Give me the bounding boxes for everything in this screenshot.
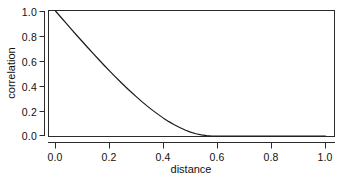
y-tick-label-1: 0.2 [15, 107, 37, 118]
x-tick-label-3: 0.6 [209, 152, 224, 163]
chart-figure: 0.0 0.2 0.4 0.6 0.8 1.0 0.0 0.2 0.4 0.6 … [0, 0, 349, 180]
x-axis-ticks [56, 143, 326, 149]
y-tick-label-2: 0.4 [15, 82, 37, 93]
y-axis-ticks [40, 12, 45, 136]
x-tick-label-5: 1.0 [317, 152, 332, 163]
y-tick-label-4: 0.8 [15, 32, 37, 43]
y-tick-label-0: 0.0 [15, 131, 37, 142]
y-tick-label-3: 0.6 [15, 57, 37, 68]
y-axis-title: correlation [6, 47, 17, 98]
y-tick-label-5: 1.0 [15, 7, 37, 18]
x-tick-label-4: 0.8 [263, 152, 278, 163]
x-tick-label-2: 0.4 [155, 152, 170, 163]
x-tick-label-0: 0.0 [47, 152, 62, 163]
x-tick-label-1: 0.2 [101, 152, 116, 163]
x-axis-title: distance [171, 164, 212, 175]
plot-frame [49, 11, 335, 137]
